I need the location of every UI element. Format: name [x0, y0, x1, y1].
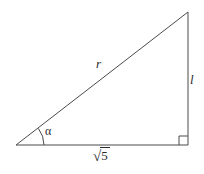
- angle-arc: [38, 128, 44, 145]
- diagram-canvas: r l α √5: [0, 0, 204, 174]
- hypotenuse-label: r: [96, 57, 101, 70]
- hypotenuse-line: [16, 12, 188, 145]
- vertical-leg-label: l: [190, 73, 194, 86]
- radical-expression: √5: [93, 147, 110, 164]
- angle-label-alpha: α: [45, 125, 51, 137]
- base-leg-label: √5: [93, 147, 110, 164]
- radicand-value: 5: [100, 147, 110, 162]
- right-angle-marker-icon: [179, 136, 188, 145]
